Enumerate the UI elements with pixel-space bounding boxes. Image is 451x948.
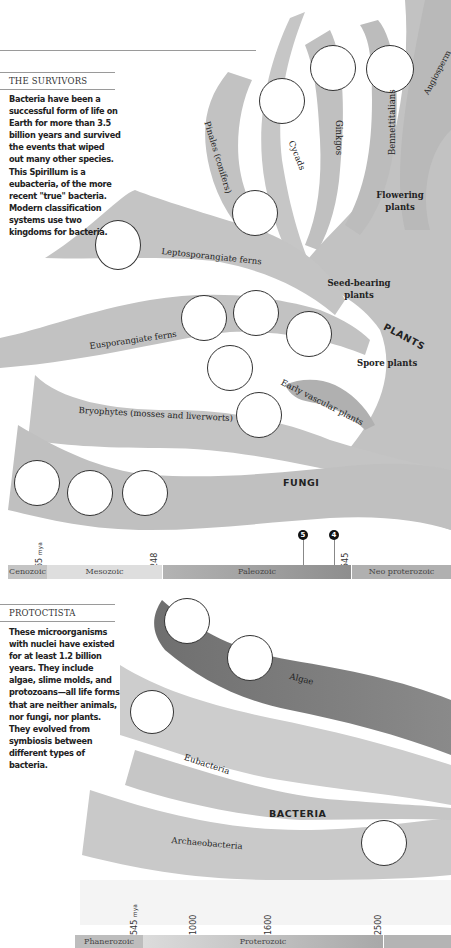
eusporangiate-illustration-2: [233, 290, 279, 336]
tick-value: 545: [130, 920, 139, 935]
eusporangiate-illustration-1: [181, 295, 227, 341]
tick-value: 2500: [374, 915, 383, 935]
label-bennettitalians: Bennettitalians: [387, 89, 397, 155]
label-ginkgos: Ginkgos: [334, 120, 344, 155]
label-spore-plants: Spore plants: [357, 358, 417, 368]
bacteria-kingdom-label: BACTERIA: [269, 808, 327, 819]
survivors-body: Bacteria have been a successful form of …: [9, 93, 121, 238]
spirillum-illustration: [130, 690, 174, 734]
fungi-kingdom-label: FUNGI: [283, 477, 320, 488]
tick-value: 1000: [189, 915, 198, 935]
era-cenozoic: Cenozoic: [8, 565, 47, 579]
survivors-title: THE SURVIVORS: [0, 72, 115, 90]
flowering-plants-text: Flowering plants: [376, 190, 424, 212]
protoctista-title: PROTOCTISTA: [0, 604, 115, 622]
era-mesozoic: Mesozoic: [47, 565, 162, 579]
tick-1600: 1600: [264, 915, 273, 935]
tick-1000: 1000: [189, 915, 198, 935]
era-archean: [384, 935, 451, 948]
era-paleozoic: Paleozoic: [163, 565, 351, 579]
conifer-illustration: [232, 190, 278, 236]
seaweed-illustration: [164, 598, 210, 644]
moss-illustration: [236, 392, 282, 438]
label-seed-bearing-plants: Seed-bearing plants: [326, 277, 392, 301]
era-phanerozoic: Phanerozoic: [75, 935, 143, 948]
ginkgo-illustration: [310, 45, 356, 91]
top-divider: [0, 50, 256, 51]
cycad-illustration: [259, 78, 305, 124]
tick-unit: mya: [36, 542, 43, 555]
horsetail-illustration: [207, 345, 253, 391]
yeast-illustration: [122, 470, 168, 516]
era-proterozoic: Proterozoic: [143, 935, 383, 948]
mold-illustration: [67, 470, 113, 516]
bennettitalian-illustration: [366, 45, 414, 93]
marker-4: 4: [329, 530, 339, 540]
early-vascular-illustration: [286, 311, 332, 357]
seed-bearing-plants-text: Seed-bearing plants: [327, 278, 390, 300]
tick-2500: 2500: [374, 915, 383, 935]
protozoan-illustration: [227, 635, 273, 681]
mushroom-illustration: [14, 460, 60, 506]
archaeobacteria-illustration: [361, 820, 407, 866]
label-flowering-plants: Flowering plants: [368, 189, 432, 213]
tick-unit: mya: [131, 904, 138, 917]
era-neo-proterozoic: Neo proterozoic: [352, 565, 451, 579]
marker-5: 5: [298, 530, 308, 540]
tick-value: 1600: [264, 915, 273, 935]
tick-545-bottom: 545 mya: [130, 904, 139, 935]
protoctista-body: These microorganisms with nuclei have ex…: [9, 626, 121, 771]
